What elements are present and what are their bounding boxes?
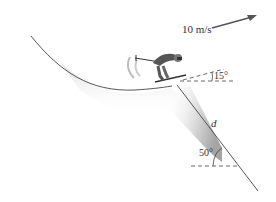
ramp-curve — [31, 36, 172, 90]
angle-15-arc — [212, 72, 213, 81]
velocity-label: 10 m/s — [182, 24, 212, 35]
landing-slope-line — [177, 85, 258, 191]
distance-label: d — [211, 118, 217, 129]
launch-angle-label: 15° — [214, 71, 228, 81]
velocity-arrow-shaft — [212, 17, 252, 28]
skier-icon — [128, 54, 186, 82]
velocity-arrow-head — [247, 15, 257, 21]
slope-angle-label: 50° — [199, 148, 213, 158]
ski-jump-diagram — [0, 0, 276, 202]
